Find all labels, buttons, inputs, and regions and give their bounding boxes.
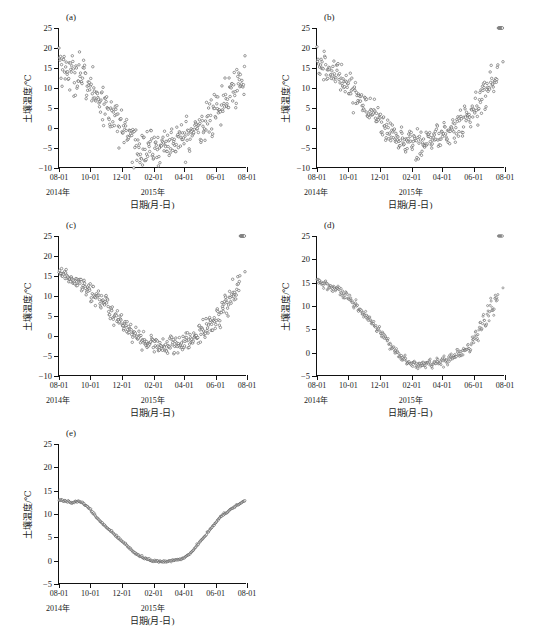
year-label-right: 2015年 (399, 186, 423, 197)
soil-temperature-figure: (a)土壤温度/℃−10−5051015202508-0110-0112-010… (0, 0, 535, 629)
y-axis-tick-label: −5 (301, 371, 310, 381)
data-series-d (317, 236, 504, 375)
x-axis-tick (184, 167, 185, 172)
x-axis-tick-label: 10-01 (339, 381, 358, 390)
x-axis-tick (412, 167, 413, 172)
x-axis-title: 日期(月-日) (58, 406, 246, 419)
panel-a: (a)土壤温度/℃−10−5051015202508-0110-0112-010… (14, 10, 266, 222)
y-axis-tick-label: 0 (48, 556, 52, 566)
x-axis-tick (348, 167, 349, 172)
x-axis-tick (380, 375, 381, 380)
x-axis-title: 日期(月-日) (316, 406, 504, 419)
x-axis-tick-label: 08-01 (238, 173, 257, 182)
y-axis-tick-label: 5 (48, 103, 52, 113)
y-axis-tick-label: 15 (44, 63, 53, 73)
x-axis-tick-label: 12-01 (112, 589, 131, 598)
y-axis-tick-label: 5 (48, 532, 52, 542)
y-axis-tick-label: −5 (43, 351, 52, 361)
y-axis-title: 土壤温度/℃ (20, 444, 34, 584)
x-axis-tick (216, 583, 217, 588)
x-axis-tick-label: 12-01 (112, 381, 131, 390)
y-axis-tick-label: 20 (44, 43, 53, 53)
panel-d: (d)土壤温度/℃−5051015202508-0110-0112-0102-0… (272, 218, 524, 430)
y-axis-tick-label: 10 (44, 509, 53, 519)
y-axis-tick-label: −5 (43, 143, 52, 153)
year-label-left: 2014年 (46, 186, 70, 197)
year-label-left: 2014年 (46, 602, 70, 613)
data-series-b (317, 28, 504, 167)
x-axis-tick (474, 375, 475, 380)
y-axis-tick-label: 25 (44, 231, 53, 241)
x-axis-tick-label: 08-01 (238, 589, 257, 598)
y-axis-tick-label: 5 (48, 311, 52, 321)
x-axis-tick (247, 167, 248, 172)
x-axis-tick-label: 08-01 (50, 381, 69, 390)
x-axis-tick (505, 375, 506, 380)
x-axis-tick-label: 06-01 (464, 381, 483, 390)
x-axis-tick (154, 167, 155, 172)
year-label-right: 2015年 (399, 394, 423, 405)
y-axis-tick-label: −10 (39, 371, 52, 381)
x-axis-tick-label: 08-01 (50, 589, 69, 598)
y-axis-title: 土壤温度/℃ (20, 236, 34, 376)
y-axis-tick-label: 25 (44, 439, 53, 449)
x-axis-title: 日期(月-日) (58, 614, 246, 627)
panel-letter-b: (b) (324, 12, 335, 22)
y-axis-tick-label: 20 (302, 254, 311, 264)
y-axis-tick-label: 15 (302, 278, 311, 288)
x-axis-tick-label: 02-01 (402, 381, 421, 390)
x-axis-tick-label: 10-01 (81, 173, 100, 182)
panel-letter-a: (a) (66, 12, 76, 22)
year-label-left: 2014年 (304, 394, 328, 405)
x-axis-tick (412, 375, 413, 380)
y-axis-tick-label: 5 (306, 103, 310, 113)
x-axis-tick (216, 167, 217, 172)
x-axis-title: 日期(月-日) (58, 198, 246, 211)
plot-frame: −5051015202508-0110-0112-0102-0104-0106-… (58, 444, 246, 584)
x-axis-tick (247, 583, 248, 588)
y-axis-title: 土壤温度/℃ (278, 236, 292, 376)
year-label-right: 2015年 (141, 394, 165, 405)
y-axis-tick-label: −5 (43, 579, 52, 589)
y-axis-tick-label: 20 (44, 251, 53, 261)
x-axis-tick-label: 06-01 (206, 381, 225, 390)
x-axis-tick-label: 02-01 (144, 589, 163, 598)
y-axis-tick-label: 10 (44, 83, 53, 93)
x-axis-tick (348, 375, 349, 380)
data-series-e (59, 444, 246, 583)
y-axis-tick-label: 10 (44, 291, 53, 301)
x-axis-tick-label: 12-01 (370, 381, 389, 390)
y-axis-tick-label: 0 (48, 331, 52, 341)
x-axis-tick (59, 375, 60, 380)
plot-frame: −10−5051015202508-0110-0112-0102-0104-01… (58, 236, 246, 376)
x-axis-tick-label: 02-01 (402, 173, 421, 182)
x-axis-tick-label: 08-01 (238, 381, 257, 390)
year-label-right: 2015年 (141, 186, 165, 197)
year-label-right: 2015年 (141, 602, 165, 613)
y-axis-tick-label: 0 (306, 348, 310, 358)
x-axis-tick-label: 02-01 (144, 173, 163, 182)
x-axis-tick (505, 167, 506, 172)
y-axis-tick-label: 10 (302, 83, 311, 93)
panel-letter-d: (d) (324, 220, 335, 230)
panel-e: (e)土壤温度/℃−5051015202508-0110-0112-0102-0… (14, 426, 266, 629)
y-axis-tick-label: 0 (48, 123, 52, 133)
plot-frame: −10−5051015202508-0110-0112-0102-0104-01… (316, 28, 504, 168)
x-axis-tick-label: 08-01 (496, 381, 515, 390)
x-axis-tick-label: 08-01 (50, 173, 69, 182)
x-axis-title: 日期(月-日) (316, 198, 504, 211)
x-axis-tick-label: 08-01 (308, 173, 327, 182)
data-series-a (59, 28, 246, 167)
y-axis-tick-label: 5 (306, 324, 310, 334)
x-axis-tick-label: 04-01 (175, 589, 194, 598)
y-axis-tick-label: 15 (44, 271, 53, 281)
x-axis-tick (184, 375, 185, 380)
data-series-c (59, 236, 246, 375)
x-axis-tick-label: 06-01 (206, 589, 225, 598)
x-axis-tick (317, 167, 318, 172)
x-axis-tick-label: 10-01 (81, 381, 100, 390)
x-axis-tick (90, 583, 91, 588)
x-axis-tick (442, 167, 443, 172)
plot-frame: −10−5051015202508-0110-0112-0102-0104-01… (58, 28, 246, 168)
year-label-left: 2014年 (46, 394, 70, 405)
